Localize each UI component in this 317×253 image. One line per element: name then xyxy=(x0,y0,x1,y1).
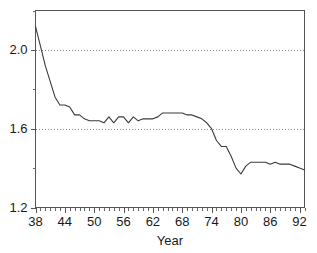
y-tick-label: 1.6 xyxy=(9,121,27,136)
line-chart: 38445056626874808692 1.21.62.0 Year xyxy=(0,0,317,253)
chart-container: 38445056626874808692 1.21.62.0 Year xyxy=(0,0,317,253)
x-tick-label: 62 xyxy=(146,214,160,229)
x-axis-tick-labels: 38445056626874808692 xyxy=(28,214,307,229)
x-axis-title: Year xyxy=(157,233,184,248)
x-tick-label: 56 xyxy=(116,214,130,229)
x-axis-ticks xyxy=(37,208,306,213)
x-tick-label: 80 xyxy=(234,214,248,229)
y-axis-ticks xyxy=(31,12,36,209)
y-axis-tick-labels: 1.21.62.0 xyxy=(9,42,27,215)
plot-frame xyxy=(36,11,305,208)
x-tick-label: 92 xyxy=(292,214,306,229)
x-tick-label: 44 xyxy=(58,214,72,229)
plot-border xyxy=(36,11,305,208)
x-tick-label: 68 xyxy=(175,214,189,229)
x-tick-label: 86 xyxy=(263,214,277,229)
data-series-line xyxy=(36,26,305,174)
grid-lines xyxy=(36,51,305,130)
y-tick-label: 2.0 xyxy=(9,42,27,57)
x-tick-label: 50 xyxy=(87,214,101,229)
y-tick-label: 1.2 xyxy=(9,200,27,215)
x-tick-label: 74 xyxy=(204,214,218,229)
x-tick-label: 38 xyxy=(28,214,42,229)
